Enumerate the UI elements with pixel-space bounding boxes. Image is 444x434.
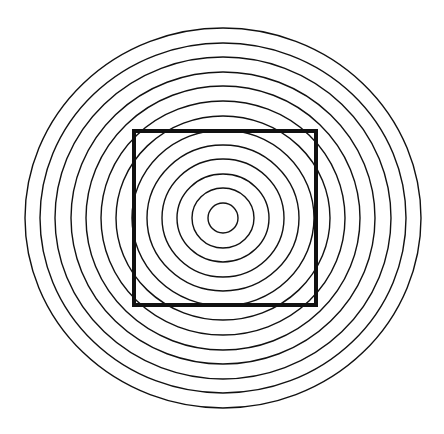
illusion-figure <box>0 0 444 434</box>
ring <box>25 28 421 408</box>
ring <box>147 145 299 291</box>
ring <box>192 188 254 248</box>
ring <box>101 101 345 335</box>
ring <box>86 86 360 350</box>
ring <box>162 159 284 277</box>
ring <box>208 203 238 233</box>
ring <box>40 43 406 393</box>
ring <box>177 174 269 262</box>
ring <box>132 130 314 306</box>
concentric-rings <box>25 28 421 408</box>
ring <box>116 116 330 320</box>
ring <box>55 57 391 379</box>
